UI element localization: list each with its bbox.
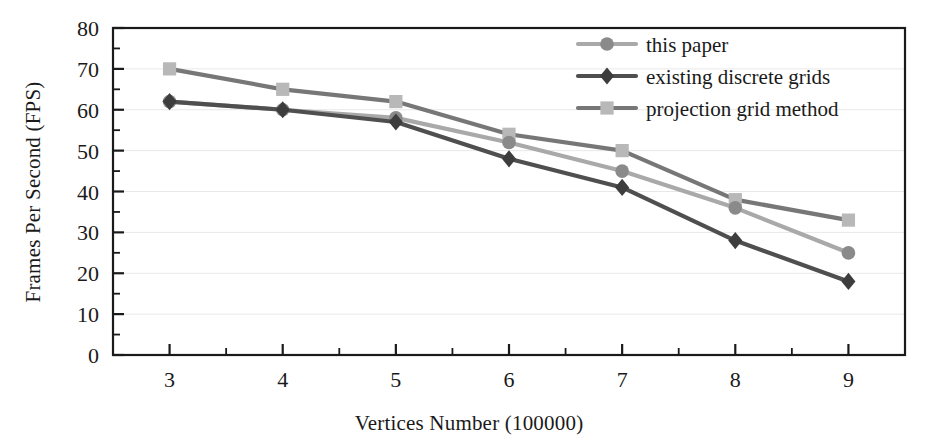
- circle-marker: [615, 164, 629, 178]
- fps-vs-vertices-line-chart: 01020304050607080 3456789 Vertices Numbe…: [0, 0, 938, 445]
- square-marker: [163, 62, 176, 75]
- x-axis-title: Vertices Number (100000): [355, 411, 584, 435]
- x-axis-tick-label: 7: [617, 367, 628, 392]
- square-marker: [389, 95, 402, 108]
- circle-marker: [502, 136, 516, 150]
- x-axis-tick-labels: 3456789: [164, 367, 854, 392]
- y-axis-tick-labels: 01020304050607080: [77, 16, 99, 368]
- legend-label: existing discrete grids: [646, 65, 830, 89]
- legend-label: this paper: [646, 33, 728, 57]
- square-marker: [616, 144, 629, 157]
- y-axis-tick-label: 20: [77, 261, 99, 286]
- x-axis-tick-label: 9: [843, 367, 854, 392]
- y-axis-tick-label: 10: [77, 302, 99, 327]
- y-axis-tick-label: 40: [77, 180, 99, 205]
- y-axis-tick-label: 30: [77, 220, 99, 245]
- y-axis-tick-label: 70: [77, 57, 99, 82]
- x-axis-tick-label: 3: [164, 367, 175, 392]
- x-axis-tick-label: 8: [730, 367, 741, 392]
- chart-figure: 01020304050607080 3456789 Vertices Numbe…: [0, 0, 938, 445]
- y-axis-title: Frames Per Second (FPS): [21, 81, 45, 302]
- y-axis-tick-label: 0: [88, 343, 99, 368]
- y-axis-tick-label: 60: [77, 98, 99, 123]
- y-axis-tick-label: 80: [77, 16, 99, 41]
- square-marker: [842, 214, 855, 227]
- x-axis-tick-label: 5: [390, 367, 401, 392]
- x-axis-tick-label: 6: [504, 367, 515, 392]
- y-axis-tick-label: 50: [77, 139, 99, 164]
- x-axis-tick-label: 4: [277, 367, 288, 392]
- square-marker: [276, 83, 289, 96]
- legend-label: projection grid method: [646, 97, 839, 121]
- square-marker: [600, 101, 613, 114]
- circle-marker: [600, 37, 614, 51]
- circle-marker: [842, 246, 856, 260]
- circle-marker: [728, 201, 742, 215]
